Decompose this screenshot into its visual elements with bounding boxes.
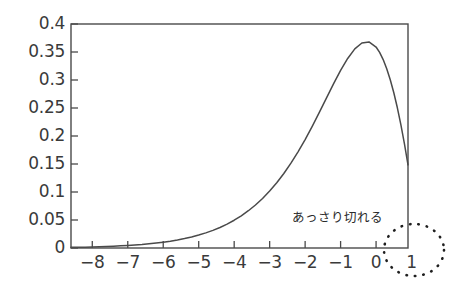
x-tick-label: −8 [72, 254, 112, 271]
x-tick-label: 0 [356, 254, 396, 271]
cutoff-annotation-label: あっさり切れる [292, 211, 383, 225]
x-tick-label: −1 [321, 254, 361, 271]
x-tick-label: −2 [285, 254, 325, 271]
y-tick-label: 0.05 [28, 211, 65, 228]
y-tick-label: 0.15 [28, 155, 65, 172]
y-tick-label: 0 [54, 239, 65, 256]
chart-figure: 00.050.10.150.20.250.30.350.4 −8−7−6−5−4… [0, 0, 452, 288]
x-tick-label: −5 [179, 254, 219, 271]
y-tick-label: 0.3 [39, 71, 65, 88]
x-tick-label: −4 [214, 254, 254, 271]
chart-canvas [0, 0, 452, 288]
y-tick-label: 0.25 [28, 99, 65, 116]
x-tick-label: −3 [250, 254, 290, 271]
y-tick-label: 0.4 [39, 15, 65, 32]
y-tick-label: 0.2 [39, 127, 65, 144]
x-tick-label: 1 [392, 254, 432, 271]
y-tick-label: 0.1 [39, 183, 65, 200]
y-tick-label: 0.35 [28, 43, 65, 60]
x-tick-label: −6 [143, 254, 183, 271]
x-tick-label: −7 [108, 254, 148, 271]
